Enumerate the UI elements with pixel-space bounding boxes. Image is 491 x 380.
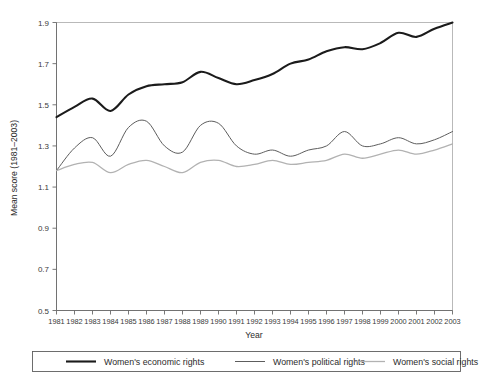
x-tick-label: 1989 <box>192 317 208 326</box>
chart-figure: 0.50.70.91.11.31.51.71.9 Mean score (198… <box>0 0 491 380</box>
y-axis-title: Mean score (1981–2003) <box>9 120 19 216</box>
legend-items: Women's economic rightsWomen's political… <box>66 357 479 367</box>
x-tick-label: 1994 <box>282 317 298 326</box>
x-tick-label: 1993 <box>264 317 280 326</box>
y-tick-label: 1.9 <box>38 19 50 28</box>
x-tick-label: 1998 <box>354 317 370 326</box>
y-tick-label: 1.5 <box>38 101 50 110</box>
x-tick-label: 1988 <box>174 317 190 326</box>
x-tick-label: 2001 <box>408 317 424 326</box>
x-tick-label: 1995 <box>300 317 316 326</box>
x-tick-label: 2000 <box>390 317 406 326</box>
x-tick-label: 1996 <box>318 317 334 326</box>
x-tick-label: 1997 <box>336 317 352 326</box>
y-tick-label: 0.9 <box>38 224 50 233</box>
x-tick-label: 1991 <box>228 317 244 326</box>
x-tick-label: 1982 <box>66 317 82 326</box>
legend-label-1: Women's political rights <box>273 357 366 367</box>
y-tick-label: 0.7 <box>38 265 50 274</box>
x-tick-label: 2003 <box>444 317 460 326</box>
x-tick-label: 1987 <box>156 317 172 326</box>
legend-label-0: Women's economic rights <box>104 357 205 367</box>
y-tick-label: 1.1 <box>38 183 50 192</box>
x-tick-label: 1983 <box>84 317 100 326</box>
x-axis-title: Year <box>245 330 263 340</box>
x-tick-label: 1992 <box>246 317 262 326</box>
y-tick-label: 1.3 <box>38 142 50 151</box>
x-axis-tick-labels: 1981198219831984198519861987198819891990… <box>48 317 460 326</box>
x-tick-label: 2002 <box>426 317 442 326</box>
legend-label-2: Women's social rights <box>393 357 479 367</box>
line-chart: 0.50.70.91.11.31.51.71.9 Mean score (198… <box>0 0 491 380</box>
y-tick-label: 0.5 <box>38 307 50 316</box>
x-tick-label: 1981 <box>48 317 64 326</box>
x-tick-label: 1986 <box>138 317 154 326</box>
x-tick-label: 1984 <box>102 317 118 326</box>
y-tick-label: 1.7 <box>38 60 50 69</box>
x-tick-label: 1999 <box>372 317 388 326</box>
x-tick-label: 1985 <box>120 317 136 326</box>
x-tick-label: 1990 <box>210 317 226 326</box>
